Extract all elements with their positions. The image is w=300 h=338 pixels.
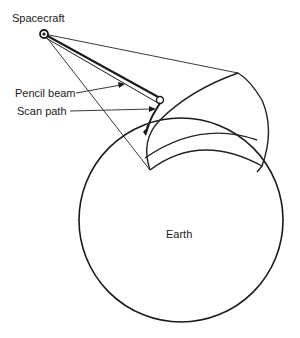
spacecraft-scan-diagram: Spacecraft Pencil beam Scan path Earth	[0, 0, 300, 338]
scan-path-label: Scan path	[17, 105, 67, 117]
pencil-beam-label: Pencil beam	[15, 87, 76, 99]
earth-circle	[79, 118, 283, 322]
spacecraft-label: Spacecraft	[12, 12, 65, 24]
beam-spot	[157, 97, 164, 104]
pencil-beam-leader	[76, 85, 121, 93]
cone-line-bottom	[44, 34, 150, 170]
earth-label: Earth	[166, 228, 192, 240]
scan-path-leader	[70, 109, 152, 111]
spacecraft-core	[42, 32, 45, 35]
